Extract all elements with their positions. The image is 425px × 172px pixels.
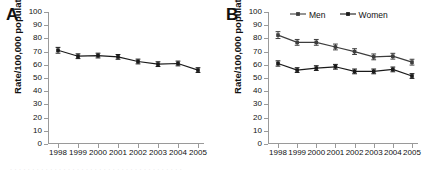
x-axis-tick-label: 2001 xyxy=(327,149,345,157)
panel-b-y-axis-title: Rate/100,000 population xyxy=(232,0,243,100)
y-axis-tick xyxy=(264,52,268,53)
data-point-marker xyxy=(391,54,395,58)
x-axis-tick-label: 1998 xyxy=(269,149,287,157)
data-point-marker xyxy=(96,54,100,58)
y-axis-tick-label: 70 xyxy=(253,48,262,56)
y-axis-tick xyxy=(264,78,268,79)
x-axis-tick-label: 2005 xyxy=(403,149,421,157)
y-axis-tick xyxy=(264,65,268,66)
y-axis-tick-label: 0 xyxy=(38,140,42,148)
panel-b: B Rate/100,000 population MenWomen 01020… xyxy=(212,0,425,172)
y-axis-tick-label: 40 xyxy=(253,87,262,95)
data-point-marker xyxy=(276,62,280,66)
panel-a-y-axis-title: Rate/100,000 population xyxy=(12,0,23,100)
data-point-marker xyxy=(410,74,414,78)
y-axis-tick-label: 20 xyxy=(253,114,262,122)
data-point-marker xyxy=(391,68,395,72)
y-axis-tick xyxy=(44,144,48,145)
panel-a-series-layer xyxy=(48,12,204,144)
y-axis-tick-label: 100 xyxy=(29,8,42,16)
y-axis-tick-label: 70 xyxy=(33,48,42,56)
y-axis-tick-label: 90 xyxy=(33,21,42,29)
x-axis-tick-label: 2002 xyxy=(346,149,364,157)
y-axis-tick-label: 100 xyxy=(249,8,262,16)
y-axis-tick-label: 60 xyxy=(253,61,262,69)
y-axis-tick-label: 0 xyxy=(258,140,262,148)
data-point-marker xyxy=(56,48,60,52)
figure-two-panel-line-charts: A Rate/100,000 population 01020304050607… xyxy=(0,0,425,172)
y-axis-tick xyxy=(264,12,268,13)
x-axis-tick-label: 2005 xyxy=(189,149,207,157)
data-point-marker xyxy=(196,68,200,72)
panel-b-series-layer xyxy=(268,12,418,144)
y-axis-tick xyxy=(44,91,48,92)
data-point-marker xyxy=(136,60,140,64)
x-axis-tick-label: 2004 xyxy=(384,149,402,157)
x-axis-tick-label: 2004 xyxy=(169,149,187,157)
data-point-marker xyxy=(176,62,180,66)
x-axis-tick-label: 1999 xyxy=(288,149,306,157)
data-point-marker xyxy=(334,45,338,49)
y-axis-tick-label: 80 xyxy=(33,34,42,42)
data-point-marker xyxy=(314,66,318,70)
x-axis-tick-label: 1998 xyxy=(49,149,67,157)
y-axis-tick-label: 60 xyxy=(33,61,42,69)
x-axis-tick-label: 2001 xyxy=(109,149,127,157)
y-axis-tick-label: 30 xyxy=(33,100,42,108)
y-axis-tick xyxy=(264,131,268,132)
y-axis-tick xyxy=(44,78,48,79)
y-axis-tick-label: 30 xyxy=(253,100,262,108)
data-point-marker xyxy=(334,65,338,69)
data-point-marker xyxy=(116,55,120,59)
data-point-marker xyxy=(372,70,376,74)
y-axis-tick xyxy=(44,52,48,53)
data-point-marker xyxy=(295,41,299,45)
data-point-marker xyxy=(276,33,280,37)
data-point-marker xyxy=(353,70,357,74)
data-point-marker xyxy=(156,62,160,66)
panel-a: A Rate/100,000 population 01020304050607… xyxy=(0,0,212,172)
series-women xyxy=(276,61,415,79)
x-axis-tick-label: 2000 xyxy=(307,149,325,157)
x-axis-tick-label: 2003 xyxy=(365,149,383,157)
cropped-caption-fragment: · · · · · · · · · · · · · · · · · · · · … xyxy=(0,165,425,172)
series-overall xyxy=(56,47,201,72)
y-axis-tick xyxy=(44,38,48,39)
series-line xyxy=(58,50,198,70)
y-axis-tick xyxy=(264,91,268,92)
y-axis-tick xyxy=(44,25,48,26)
y-axis-tick-label: 50 xyxy=(33,74,42,82)
data-point-marker xyxy=(372,55,376,59)
y-axis-tick xyxy=(264,118,268,119)
y-axis-tick xyxy=(44,65,48,66)
y-axis-tick-label: 90 xyxy=(253,21,262,29)
x-axis-tick-label: 1999 xyxy=(69,149,87,157)
y-axis-tick xyxy=(264,38,268,39)
x-axis-tick-label: 2002 xyxy=(129,149,147,157)
y-axis-tick xyxy=(44,12,48,13)
y-axis-tick xyxy=(264,104,268,105)
series-men xyxy=(276,32,415,65)
data-point-marker xyxy=(295,68,299,72)
panel-a-plot-area: 0102030405060708090100199819992000200120… xyxy=(48,12,204,144)
y-axis-tick-label: 40 xyxy=(33,87,42,95)
y-axis-tick-label: 20 xyxy=(33,114,42,122)
y-axis-tick xyxy=(264,25,268,26)
y-axis-tick xyxy=(44,131,48,132)
data-point-marker xyxy=(314,41,318,45)
x-axis-tick-label: 2000 xyxy=(89,149,107,157)
data-point-marker xyxy=(76,54,80,58)
y-axis-tick-label: 10 xyxy=(253,127,262,135)
y-axis-tick-label: 80 xyxy=(253,34,262,42)
y-axis-tick-label: 10 xyxy=(33,127,42,135)
y-axis-tick xyxy=(44,118,48,119)
y-axis-tick-label: 50 xyxy=(253,74,262,82)
y-axis-tick xyxy=(264,144,268,145)
x-axis-tick-label: 2003 xyxy=(149,149,167,157)
y-axis-tick xyxy=(44,104,48,105)
data-point-marker xyxy=(353,50,357,54)
panel-b-plot-area: 0102030405060708090100199819992000200120… xyxy=(268,12,418,144)
data-point-marker xyxy=(410,60,414,64)
